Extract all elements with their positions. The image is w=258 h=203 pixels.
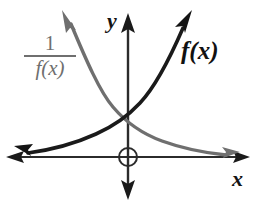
x-axis-label: x	[232, 168, 243, 190]
graph-canvas	[0, 0, 258, 203]
graph-figure: f(x) y x 1 f(x)	[0, 0, 258, 203]
reciprocal-denominator: f(x)	[24, 57, 76, 79]
y-axis-label: y	[107, 10, 117, 32]
curve-reciprocal-f-label: 1 f(x)	[24, 33, 76, 79]
curve-f-label: f(x)	[181, 38, 218, 63]
curve-f	[14, 10, 192, 156]
reciprocal-numerator: 1	[24, 33, 76, 55]
